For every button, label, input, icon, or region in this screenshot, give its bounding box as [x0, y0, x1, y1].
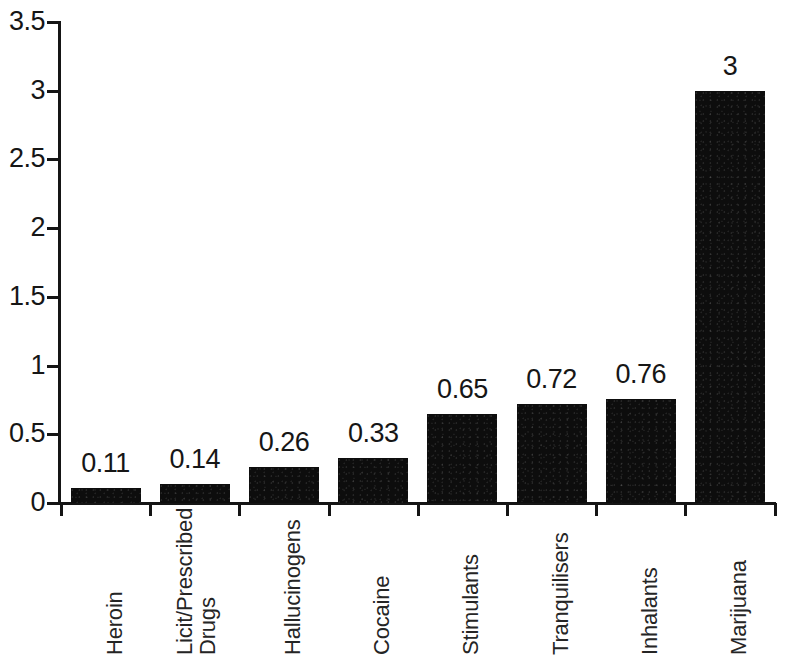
- x-axis-tick: [595, 503, 598, 516]
- x-axis-tick: [149, 503, 152, 516]
- bar: [695, 91, 765, 503]
- x-axis-tick: [506, 503, 509, 516]
- category-label: Hallucinogens: [281, 519, 304, 655]
- x-axis-tick: [774, 503, 777, 516]
- bar-value-label: 0.76: [581, 361, 701, 388]
- x-axis-tick: [60, 503, 63, 516]
- y-axis-tick: [47, 158, 59, 161]
- y-axis-tick-label: 3.5: [0, 8, 45, 35]
- bar-chart: 00.511.522.533.5 0.110.140.260.330.650.7…: [0, 0, 792, 663]
- chart-page: 00.511.522.533.5 0.110.140.260.330.650.7…: [0, 0, 792, 663]
- y-axis-tick: [47, 365, 59, 368]
- y-axis-tick-label: 0.5: [0, 420, 45, 447]
- bar: [517, 404, 587, 503]
- bar: [427, 414, 497, 503]
- bar: [606, 399, 676, 503]
- category-label: Tranquilisers: [549, 532, 572, 655]
- bar-value-label: 3: [670, 53, 790, 80]
- bar: [249, 467, 319, 503]
- y-axis-tick-label: 1: [0, 352, 45, 379]
- x-axis-tick: [238, 503, 241, 516]
- x-axis-tick: [684, 503, 687, 516]
- category-label: Cocaine: [370, 576, 393, 655]
- y-axis-tick-label: 2.5: [0, 145, 45, 172]
- bar: [160, 484, 230, 503]
- y-axis-tick: [47, 433, 59, 436]
- y-axis-tick-label: 1.5: [0, 283, 45, 310]
- category-label: Licit/Prescribed Drugs: [173, 508, 220, 655]
- bar: [338, 458, 408, 503]
- y-axis-tick: [47, 296, 59, 299]
- x-axis-tick: [328, 503, 331, 516]
- x-axis-tick: [417, 503, 420, 516]
- bar: [71, 488, 141, 503]
- y-axis-tick: [47, 227, 59, 230]
- y-axis-tick: [47, 21, 59, 24]
- y-axis-tick-label: 2: [0, 214, 45, 241]
- category-label: Marijuana: [727, 560, 750, 655]
- bar-value-label: 0.33: [313, 420, 433, 447]
- y-axis-tick-label: 0: [0, 489, 45, 516]
- category-label: Stimulants: [459, 554, 482, 655]
- y-axis-tick: [47, 90, 59, 93]
- y-axis-tick: [47, 502, 59, 505]
- category-label: Heroin: [103, 591, 126, 655]
- category-label: Inhalants: [638, 568, 661, 656]
- y-axis-tick-label: 3: [0, 77, 45, 104]
